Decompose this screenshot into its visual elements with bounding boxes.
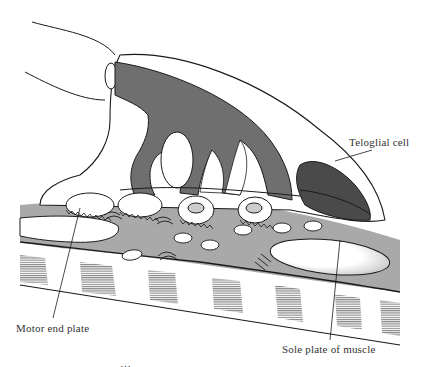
neuromuscular-junction-diagram: Teloglial cell Motor end plate Sole plat…	[0, 0, 428, 367]
label-motor-end-plate: Motor end plate	[16, 322, 89, 334]
label-teloglial-cell: Teloglial cell	[349, 136, 409, 148]
clipped-caption: …	[120, 359, 420, 367]
label-sole-plate: Sole plate of muscle	[282, 343, 376, 355]
